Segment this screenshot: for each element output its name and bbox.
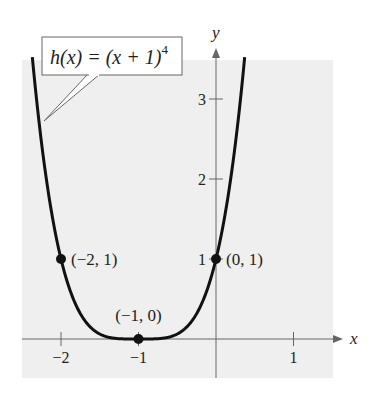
y-tick-label: 3 [198,91,206,108]
data-point [56,254,66,264]
y-axis-arrow-icon [212,48,220,58]
data-point [211,254,221,264]
x-tick-label: 1 [290,349,298,366]
function-label: h(x) = (x + 1)4 [50,42,168,69]
point-label: (−1, 0) [115,306,161,325]
plot-background [22,60,333,378]
point-label: (−2, 1) [71,250,117,269]
y-tick-label: 2 [198,171,206,188]
x-axis-label: x [349,329,358,348]
function-graph: x y −2−11 123 (−2, 1)(−1, 0)(0, 1) h(x) … [0,0,370,393]
x-tick-label: −2 [52,349,69,366]
function-exponent: 4 [161,42,168,57]
x-tick-label: −1 [130,349,147,366]
point-label: (0, 1) [226,250,263,269]
y-tick-label: 1 [198,251,206,268]
x-axis-arrow-icon [333,335,343,343]
function-label-text: h(x) = (x + 1) [50,46,162,69]
y-axis-label: y [210,23,220,42]
data-point [134,334,144,344]
